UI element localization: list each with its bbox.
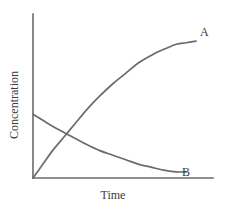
axes bbox=[33, 14, 213, 178]
curve-a-label: A bbox=[200, 26, 209, 38]
curve-b-label: B bbox=[182, 166, 190, 178]
y-axis-label: Concentration bbox=[8, 71, 20, 139]
curve-a bbox=[33, 41, 196, 178]
plot-area bbox=[0, 0, 226, 212]
concentration-vs-time-chart: A B Time Concentration bbox=[0, 0, 226, 212]
x-axis-label: Time bbox=[0, 189, 226, 201]
curve-b bbox=[33, 114, 186, 172]
